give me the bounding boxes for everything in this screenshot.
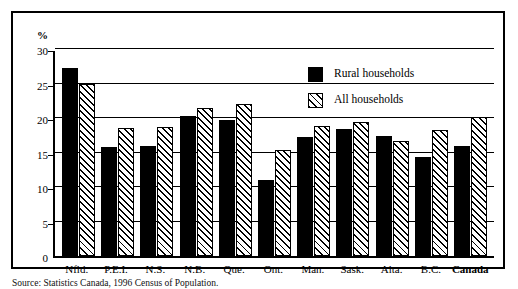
bar xyxy=(471,117,487,256)
bar xyxy=(79,84,95,256)
bar xyxy=(180,116,196,256)
bar xyxy=(275,150,291,256)
legend-item-all-households: All households xyxy=(308,87,483,113)
x-axis-tick-label: Nfld. xyxy=(57,260,96,278)
x-axis-tick-label: P.E.I. xyxy=(96,260,135,278)
y-axis-tick-label: 10 xyxy=(37,184,48,195)
y-axis-tick-label: 15 xyxy=(37,149,48,160)
bar xyxy=(101,147,117,256)
bar-group xyxy=(98,51,137,256)
y-axis-tick-label: 0 xyxy=(43,253,49,264)
x-axis-tick-label: Canada xyxy=(451,260,490,278)
bar xyxy=(297,137,313,256)
bar-group xyxy=(59,51,98,256)
x-axis-tick-label: Que. xyxy=(214,260,253,278)
y-axis-tick-label: 20 xyxy=(37,115,48,126)
y-axis-tick-label: 25 xyxy=(37,80,48,91)
source-text: Statistics Canada, 1996 Census of Popula… xyxy=(43,278,218,288)
legend-label: All households xyxy=(334,94,403,106)
hatched-swatch-icon xyxy=(308,93,323,108)
bar xyxy=(336,129,352,256)
chart-frame: % 051015202530 Nfld.P.E.I.N.S.N.B.Que.On… xyxy=(11,11,505,269)
x-axis-tick-label: Alta. xyxy=(372,260,411,278)
x-axis-tick-label: N.S. xyxy=(136,260,175,278)
x-axis-tick-label: N.B. xyxy=(175,260,214,278)
x-axis-tick-label: Ont. xyxy=(254,260,293,278)
bar xyxy=(157,127,173,256)
x-axis-tick-labels: Nfld.P.E.I.N.S.N.B.Que.Ont.Man.Sask.Alta… xyxy=(53,260,494,278)
legend-item-rural-households: Rural households xyxy=(308,61,483,87)
bar xyxy=(454,146,470,256)
bar xyxy=(314,126,330,256)
chart-legend: Rural households All households xyxy=(308,61,483,113)
bar xyxy=(236,104,252,256)
x-axis-tick-label: B.C. xyxy=(411,260,450,278)
bar xyxy=(376,136,392,256)
bar-group xyxy=(137,51,176,256)
bar xyxy=(118,128,134,256)
source-label: Source: xyxy=(12,278,41,288)
bar-group xyxy=(255,51,294,256)
bar xyxy=(197,108,213,256)
bar xyxy=(415,157,431,256)
bar xyxy=(219,120,235,256)
bar-group xyxy=(177,51,216,256)
gridline xyxy=(55,48,494,49)
x-axis-tick-label: Man. xyxy=(293,260,332,278)
bar xyxy=(353,122,369,256)
bar xyxy=(62,68,78,256)
bar-group xyxy=(216,51,255,256)
x-axis-tick-label: Sask. xyxy=(333,260,372,278)
y-axis-tick-label: 30 xyxy=(37,46,48,57)
legend-label: Rural households xyxy=(334,68,414,80)
bar xyxy=(432,130,448,256)
bar xyxy=(258,180,274,256)
solid-black-swatch-icon xyxy=(308,67,323,82)
bar xyxy=(393,141,409,256)
source-note: Source: Statistics Canada, 1996 Census o… xyxy=(12,278,218,289)
bar xyxy=(140,146,156,256)
y-axis-tick-labels: 051015202530 xyxy=(13,13,53,258)
